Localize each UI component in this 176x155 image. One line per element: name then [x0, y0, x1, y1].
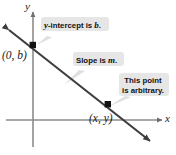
callout-y-intercept-end: .	[99, 21, 101, 30]
callout-y-intercept-text: y-intercept is b.	[44, 20, 101, 32]
arbitrary-point	[105, 101, 111, 107]
callout-arbitrary-line1: This point	[122, 76, 164, 86]
y-intercept-point-label: (0, b)	[2, 50, 27, 62]
callout-slope-end: .	[115, 56, 117, 65]
slope-intercept-diagram: y x (0, b) (x, y) y-intercept is b. Slop…	[0, 0, 176, 155]
tail-arbitrary	[108, 96, 131, 107]
y-intercept-point	[30, 42, 36, 48]
y-axis-label: y	[25, 1, 30, 12]
callout-arbitrary-text: This pointis arbitrary.	[122, 76, 164, 96]
callout-y-intercept-mid: -intercept is	[48, 21, 94, 30]
callout-tails	[36, 36, 131, 107]
callout-arbitrary-line2: is arbitrary.	[122, 86, 164, 96]
callout-slope-text: Slope is m.	[76, 55, 117, 67]
tail-y-intercept	[36, 36, 52, 46]
x-axis-label: x	[165, 113, 170, 124]
arbitrary-point-label: (x, y)	[89, 113, 113, 125]
callout-slope-mid: Slope is	[76, 56, 108, 65]
